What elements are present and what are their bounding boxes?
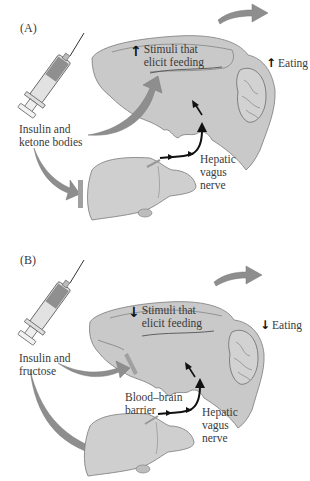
stimuli-label: ↓ Stimuli that elicit feeding [128, 304, 202, 330]
eating-label: ↑ Eating [266, 57, 308, 70]
stimuli-line1: Stimuli that [142, 304, 202, 317]
eating-arrow [218, 4, 268, 24]
panel-label: (B) [20, 254, 36, 267]
nerve-label: Hepatic vagus nerve [200, 153, 236, 192]
nerve-line3: nerve [202, 432, 238, 445]
blocked-barrier-icon [78, 180, 83, 208]
down-arrow-icon: ↓ [260, 319, 270, 332]
liver-icon [84, 414, 194, 477]
up-arrow-icon: ↑ [130, 45, 142, 58]
injection-line2: ketone bodies [19, 136, 83, 149]
injection-line2: fructose [19, 365, 70, 378]
nerve-line2: vagus [202, 419, 238, 432]
barrier-label: Blood–brain barrier [125, 391, 183, 417]
injection-line1: Insulin and [19, 352, 70, 365]
injection-label: Insulin and fructose [19, 352, 70, 378]
nerve-line1: Hepatic [200, 153, 236, 166]
injection-label: Insulin and ketone bodies [19, 123, 83, 149]
up-arrow-icon: ↑ [266, 57, 276, 70]
syringe-icon [16, 260, 84, 347]
nerve-line2: vagus [200, 166, 236, 179]
stimuli-line1: Stimuli that [144, 43, 204, 56]
eating-label: ↓ Eating [260, 319, 302, 332]
eating-arrow [214, 266, 262, 286]
liver-icon [88, 158, 197, 221]
flow-arrow-to-liver [34, 148, 80, 200]
eating-text: Eating [278, 57, 308, 70]
nerve-line3: nerve [200, 179, 236, 192]
stimuli-line2: elicit feeding [144, 56, 204, 69]
barrier-line2: barrier [125, 404, 183, 417]
nerve-line1: Hepatic [202, 406, 238, 419]
panel-label: (A) [20, 22, 37, 35]
stimuli-line2: elicit feeding [142, 317, 202, 330]
stimuli-label: ↑ Stimuli that elicit feeding [130, 43, 204, 69]
syringe-icon [16, 33, 84, 120]
panel-a: (A) ↑ Stimuli that elicit feeding ↑ Eati… [0, 0, 310, 240]
panel-b: (B) ↓ Stimuli that elicit feeding ↓ Eati… [0, 240, 310, 481]
panel-a-artwork [0, 0, 310, 240]
nerve-label: Hepatic vagus nerve [202, 406, 238, 445]
injection-line1: Insulin and [19, 123, 83, 136]
eating-text: Eating [272, 319, 302, 332]
down-arrow-icon: ↓ [128, 306, 140, 319]
barrier-line1: Blood–brain [125, 391, 183, 404]
